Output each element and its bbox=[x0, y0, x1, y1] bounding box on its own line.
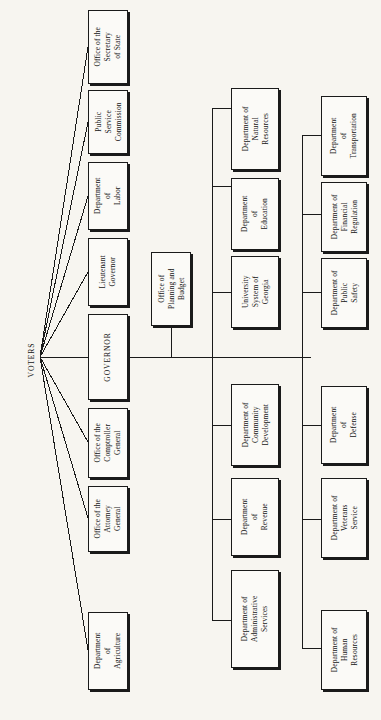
node-veterans[interactable]: Department ofVeteransService bbox=[321, 478, 367, 558]
wire-voters-sec-state bbox=[40, 47, 88, 357]
node-label: LieutenantGovernor bbox=[98, 255, 118, 288]
node-label: Department ofNaturalResources bbox=[240, 107, 270, 152]
node-revenue[interactable]: DepartmentofRevenue bbox=[231, 478, 279, 556]
node-dnr[interactable]: Department ofNaturalResources bbox=[231, 88, 279, 170]
node-attorney[interactable]: Office of theAttorneyGeneral bbox=[88, 486, 128, 552]
node-safety[interactable]: Department ofPublicSafety bbox=[321, 258, 367, 328]
node-label: DepartmentofLabor bbox=[93, 178, 123, 214]
node-label: Department ofFinancialRegulation bbox=[329, 195, 359, 240]
node-financial[interactable]: Department ofFinancialRegulation bbox=[321, 182, 367, 252]
node-governor[interactable]: GOVERNOR bbox=[88, 314, 128, 400]
root-label-voters: VOTERS bbox=[27, 332, 36, 378]
node-psc[interactable]: PublicServiceCommission bbox=[88, 90, 128, 154]
node-sec-state[interactable]: Office of theSecretaryof State bbox=[88, 10, 128, 84]
node-label: Department ofHumanResources bbox=[329, 628, 359, 673]
node-label: UniversitySystem ofGeorgia bbox=[240, 276, 270, 309]
node-label: Department ofAdministrativeServices bbox=[240, 596, 270, 642]
node-label: DepartmentofTransportation bbox=[329, 113, 359, 158]
node-label: Office ofPlanning andBudget bbox=[156, 269, 186, 310]
org-chart: VOTERS Office of theSecretaryof State Pu… bbox=[0, 0, 381, 720]
wire-voters-psc bbox=[40, 122, 88, 357]
wire-voters-labor bbox=[40, 196, 88, 357]
node-opb[interactable]: Office ofPlanning andBudget bbox=[151, 252, 191, 326]
node-agriculture[interactable]: DepartmentofAgriculture bbox=[88, 612, 128, 690]
node-usg[interactable]: UniversitySystem ofGeorgia bbox=[231, 256, 279, 328]
wire-voters-lt-gov bbox=[40, 272, 88, 357]
node-comptroller[interactable]: Office of theComptrollerGeneral bbox=[88, 408, 128, 478]
node-label: DepartmentofDefense bbox=[329, 407, 359, 443]
wire-voters-agriculture bbox=[40, 357, 88, 650]
node-dot[interactable]: DepartmentofTransportation bbox=[321, 96, 367, 176]
node-label: Office of theSecretaryof State bbox=[93, 27, 123, 67]
node-community[interactable]: Department ofCommunityDevelopment bbox=[231, 384, 279, 466]
node-human[interactable]: Department ofHumanResources bbox=[321, 610, 367, 690]
node-admin[interactable]: Department ofAdministrativeServices bbox=[231, 570, 279, 668]
node-label: DepartmentofRevenue bbox=[240, 499, 270, 535]
node-label: Department ofCommunityDevelopment bbox=[240, 403, 270, 448]
node-label: DepartmentofEducation bbox=[240, 196, 270, 232]
node-defense[interactable]: DepartmentofDefense bbox=[321, 386, 367, 464]
node-education[interactable]: DepartmentofEducation bbox=[231, 178, 279, 250]
node-label: PublicServiceCommission bbox=[93, 103, 123, 142]
node-label: GOVERNOR bbox=[103, 332, 113, 381]
node-labor[interactable]: DepartmentofLabor bbox=[88, 162, 128, 230]
node-lt-gov[interactable]: LieutenantGovernor bbox=[88, 238, 128, 306]
node-label: Office of theAttorneyGeneral bbox=[93, 499, 123, 539]
node-label: Department ofVeteransService bbox=[329, 496, 359, 541]
wire-voters-attorney bbox=[40, 357, 88, 518]
node-label: Office of theComptrollerGeneral bbox=[93, 423, 123, 463]
node-label: Department ofPublicSafety bbox=[329, 271, 359, 316]
node-label: DepartmentofAgriculture bbox=[93, 633, 123, 669]
